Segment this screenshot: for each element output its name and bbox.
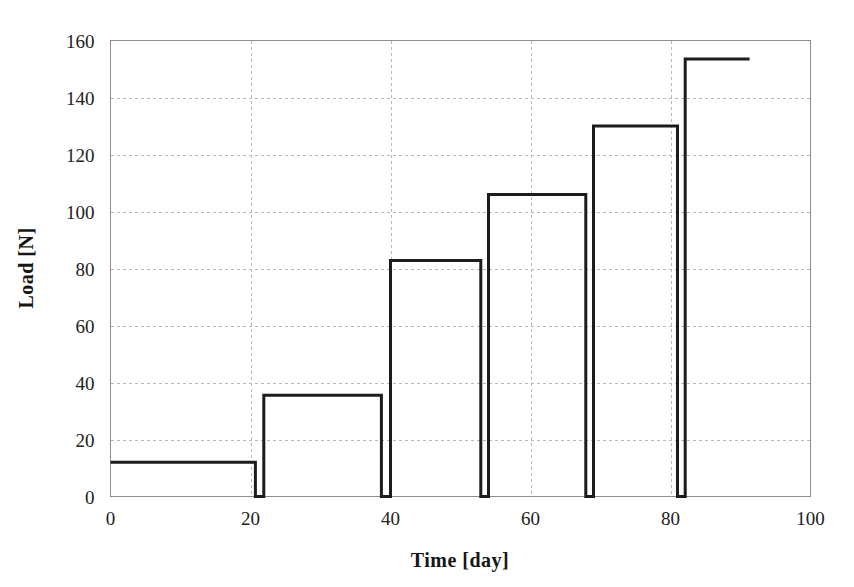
- x-tick-label: 100: [796, 508, 825, 529]
- y-tick-label: 140: [66, 88, 95, 109]
- y-axis-title: Load [N]: [15, 227, 37, 308]
- x-tick-label: 60: [521, 508, 540, 529]
- y-tick-label: 60: [76, 316, 95, 337]
- y-tick-label: 80: [76, 259, 95, 280]
- y-tick-label: 40: [76, 373, 95, 394]
- x-tick-label: 40: [381, 508, 400, 529]
- x-tick-label: 20: [241, 508, 260, 529]
- chart-background: [0, 0, 854, 587]
- chart-figure: 020406080100120140160 020406080100 Time …: [0, 0, 854, 587]
- y-tick-label: 120: [66, 145, 95, 166]
- x-axis-title: Time [day]: [411, 549, 510, 572]
- y-tick-label: 160: [66, 31, 95, 52]
- y-tick-label: 100: [66, 202, 95, 223]
- x-tick-label: 80: [661, 508, 680, 529]
- load-vs-time-step-chart: 020406080100120140160 020406080100 Time …: [0, 0, 854, 587]
- y-tick-label: 0: [85, 487, 95, 508]
- x-tick-label: 0: [106, 508, 116, 529]
- y-tick-label: 20: [76, 430, 95, 451]
